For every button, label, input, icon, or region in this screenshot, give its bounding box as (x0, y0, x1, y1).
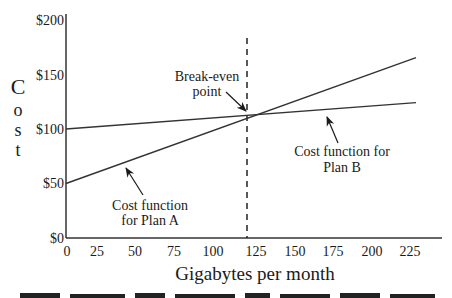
x-axis-title: Gigabytes per month (175, 263, 335, 284)
break-even-annotation: Break-even point (175, 69, 240, 99)
y-tick-label: $0 (50, 231, 64, 246)
y-tick-label: $100 (36, 122, 64, 137)
annotation-text: Plan B (323, 160, 361, 175)
plan-b-annotation: Cost function for Plan B (294, 144, 390, 175)
x-tick-label: 25 (90, 244, 104, 259)
x-tick-label: 200 (362, 244, 383, 259)
x-tick-label: 100 (203, 244, 224, 259)
x-tick-label: 75 (167, 244, 181, 259)
plan-a-annotation: Cost function for Plan A (112, 198, 188, 228)
y-axis-title-letter: s (14, 120, 21, 140)
x-tick-label: 175 (323, 244, 344, 259)
annotation-text: Break-even (175, 69, 240, 84)
y-axis-title-letter: o (14, 100, 23, 120)
annotation-text: Cost function (112, 198, 188, 213)
annotation-text: point (193, 84, 222, 99)
y-axis-title-letter: C (11, 74, 26, 99)
x-tick-labels: 0 25 50 75 100 125 150 175 200 225 (64, 244, 421, 259)
break-even-arrow-icon (226, 92, 246, 111)
cost-chart: $0 $50 $100 $150 $200 0 25 50 75 100 125… (0, 0, 452, 298)
annotation-text: Cost function for (294, 144, 390, 159)
annotation-text: for Plan A (121, 213, 179, 228)
plan-b-arrow-icon (327, 117, 338, 143)
x-tick-label: 150 (285, 244, 306, 259)
cut-off-text-row (20, 293, 435, 298)
y-axis-title-letter: t (15, 140, 20, 160)
plan-a-arrow-icon (126, 168, 143, 195)
y-tick-label: $50 (43, 176, 64, 191)
y-tick-labels: $0 $50 $100 $150 $200 (36, 13, 64, 246)
x-tick-label: 225 (400, 244, 421, 259)
y-axis-title: C o s t (11, 74, 26, 160)
y-tick-label: $200 (36, 13, 64, 28)
x-tick-label: 125 (246, 244, 267, 259)
y-tick-label: $150 (36, 68, 64, 83)
x-tick-label: 50 (128, 244, 142, 259)
x-tick-label: 0 (64, 244, 71, 259)
plan-a-line (66, 58, 416, 184)
